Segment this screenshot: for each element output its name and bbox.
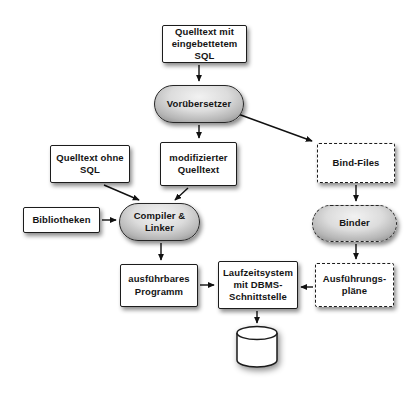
node-ausfuehrungsplaene: Ausführungs- pläne	[315, 263, 394, 307]
database-cylinder-icon	[237, 327, 277, 368]
node-ausfuehrbares-programm: ausführbares Programm	[120, 264, 198, 307]
node-quelltext-ohne-sql: Quelltext ohne SQL	[50, 145, 130, 183]
node-quelltext-mit-sql: Quelltext mit eingebettetem SQL	[162, 25, 247, 63]
node-binder: Binder	[312, 205, 397, 242]
node-modifizierter-quelltext: modifizierter Quelltext	[160, 142, 237, 186]
node-bind-files: Bind-Files	[317, 143, 395, 183]
node-compiler-linker: Compiler & Linker	[119, 203, 200, 241]
arrow-quelltextohne-to-compiler	[104, 185, 139, 200]
node-voruebersetzer: Vorübersetzer	[154, 85, 244, 123]
node-bibliotheken: Bibliotheken	[23, 207, 100, 233]
diagram-canvas: Quelltext mit eingebettetem SQL Vorübers…	[0, 0, 418, 395]
arrow-modifizierter-to-compiler	[175, 188, 188, 200]
node-laufzeitsystem: Laufzeitsystem mit DBMS- Schnittstelle	[218, 261, 298, 309]
arrow-voruebersetzer-to-bindfiles	[238, 114, 312, 141]
